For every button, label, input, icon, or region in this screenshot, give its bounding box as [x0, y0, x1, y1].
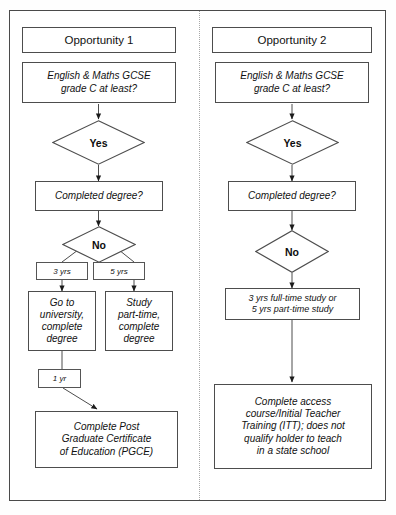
- edge-label-3-yrs: 3 yrs: [36, 262, 88, 280]
- node-go-to-university: Go to university, complete degree: [28, 291, 96, 351]
- header-opportunity-2-label: Opportunity 2: [257, 33, 326, 47]
- node-pgce-line2: Graduate Certificate: [62, 433, 152, 445]
- node-gcse-requirement-1-line1: English & Maths GCSE: [47, 70, 150, 82]
- node-pgce-line3: of Education (PGCE): [60, 446, 153, 458]
- node-pgce-line1: Complete Post: [74, 421, 140, 433]
- node-pgce: Complete Post Graduate Certificate of Ed…: [35, 411, 178, 468]
- node-completed-degree-2: Completed degree?: [228, 181, 356, 211]
- node-study-options-line2: 5 yrs part-time study: [252, 304, 334, 315]
- node-study-part-time-line3: complete: [119, 321, 160, 333]
- node-go-to-university-line2: university,: [40, 309, 84, 321]
- node-gcse-requirement-1-line2: grade C at least?: [61, 83, 137, 95]
- node-go-to-university-line4: degree: [46, 333, 77, 345]
- node-completed-degree-2-label: Completed degree?: [248, 190, 336, 202]
- edge-label-1-yr-text: 1 yr: [53, 374, 66, 383]
- decision-yes-1-label: Yes: [52, 120, 145, 165]
- node-study-options: 3 yrs full-time study or 5 yrs part-time…: [225, 288, 360, 320]
- node-completed-degree-1: Completed degree?: [35, 181, 163, 211]
- column-divider: [199, 11, 200, 500]
- edge-label-5-yrs: 5 yrs: [93, 262, 145, 280]
- header-opportunity-1: Opportunity 1: [22, 27, 176, 53]
- node-access-itt-line2: course/Initial Teacher: [246, 408, 341, 420]
- decision-no-2: No: [255, 230, 329, 273]
- node-study-options-line1: 3 yrs full-time study or: [248, 293, 336, 304]
- decision-no-1-label: No: [62, 226, 136, 263]
- node-access-itt-line5: in a state school: [257, 445, 329, 457]
- decision-no-1: No: [62, 226, 136, 263]
- node-study-part-time-line4: degree: [123, 333, 154, 345]
- header-opportunity-1-label: Opportunity 1: [64, 33, 133, 47]
- edge-label-5-yrs-text: 5 yrs: [110, 267, 127, 276]
- node-access-itt-line3: Training (ITT); does not: [241, 420, 345, 432]
- node-access-itt-line4: qualify holder to teach: [244, 433, 342, 445]
- node-completed-degree-1-label: Completed degree?: [55, 190, 143, 202]
- node-gcse-requirement-2-line2: grade C at least?: [254, 83, 330, 95]
- node-access-itt-line1: Complete access: [255, 396, 332, 408]
- node-gcse-requirement-2-line1: English & Maths GCSE: [240, 70, 343, 82]
- flowchart-canvas: Opportunity 1 English & Maths GCSE grade…: [0, 0, 396, 515]
- node-go-to-university-line1: Go to: [50, 297, 74, 309]
- edge-label-3-yrs-text: 3 yrs: [53, 267, 70, 276]
- decision-no-2-label: No: [255, 230, 329, 273]
- node-go-to-university-line3: complete: [42, 321, 83, 333]
- edge-label-1-yr: 1 yr: [38, 369, 81, 388]
- header-opportunity-2: Opportunity 2: [212, 27, 372, 53]
- decision-yes-2-label: Yes: [246, 120, 339, 165]
- node-access-itt: Complete access course/Initial Teacher T…: [214, 384, 372, 469]
- node-study-part-time-line1: Study: [126, 297, 152, 309]
- node-study-part-time: Study part-time, complete degree: [105, 291, 173, 351]
- node-study-part-time-line2: part-time,: [118, 309, 160, 321]
- decision-yes-2: Yes: [246, 120, 339, 165]
- decision-yes-1: Yes: [52, 120, 145, 165]
- node-gcse-requirement-2: English & Maths GCSE grade C at least?: [215, 62, 369, 103]
- node-gcse-requirement-1: English & Maths GCSE grade C at least?: [22, 62, 176, 103]
